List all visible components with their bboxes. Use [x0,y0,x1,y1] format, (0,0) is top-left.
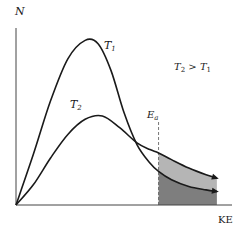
series-label-t1: T1 [104,39,116,53]
chart: N KE T1 T2 Ea T2 > T1 [0,0,243,229]
shading-group [159,153,217,205]
y-axis-label: N [14,5,25,18]
arrowhead-t2-icon [211,174,219,180]
series-label-t2: T2 [70,98,82,112]
annotation-t2-gt-t1: T2 > T1 [174,61,211,74]
x-axis-label: KE [218,214,233,225]
threshold-label: Ea [146,109,159,122]
